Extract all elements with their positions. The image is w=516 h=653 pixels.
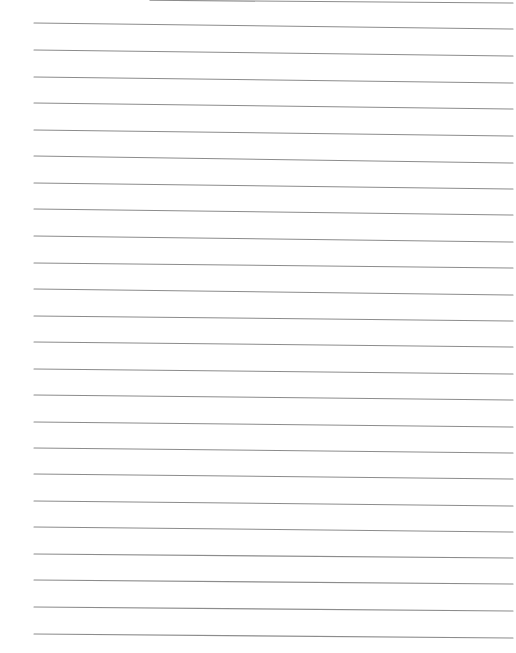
ruled-line-4 xyxy=(34,103,513,109)
ruled-line-24 xyxy=(34,634,513,638)
ruled-line-7 xyxy=(34,183,513,189)
lined-paper-page xyxy=(0,0,516,653)
ruled-line-23 xyxy=(34,607,513,611)
ruled-line-14 xyxy=(34,369,513,374)
ruled-line-11 xyxy=(34,289,513,295)
ruled-line-3 xyxy=(34,77,513,83)
ruled-line-5 xyxy=(34,130,513,136)
ruled-line-1 xyxy=(34,23,513,29)
ruled-line-12 xyxy=(34,316,513,321)
ruled-line-6 xyxy=(34,156,513,163)
ruled-line-18 xyxy=(34,474,513,479)
ruled-line-2 xyxy=(34,50,513,56)
ruled-line-22 xyxy=(34,580,513,584)
ruled-line-8 xyxy=(34,209,513,215)
ruled-line-15 xyxy=(34,395,513,400)
ruled-line-21 xyxy=(34,554,513,558)
ruled-line-13 xyxy=(34,342,513,347)
ruled-line-17 xyxy=(34,448,513,453)
ruled-line-10 xyxy=(34,263,513,268)
ruled-line-19 xyxy=(34,501,513,506)
ruled-line-20 xyxy=(34,527,513,532)
ruled-line-16 xyxy=(34,422,513,427)
ruled-line-0 xyxy=(150,0,513,3)
ruled-line-9 xyxy=(34,236,513,242)
ruled-lines xyxy=(0,0,516,653)
